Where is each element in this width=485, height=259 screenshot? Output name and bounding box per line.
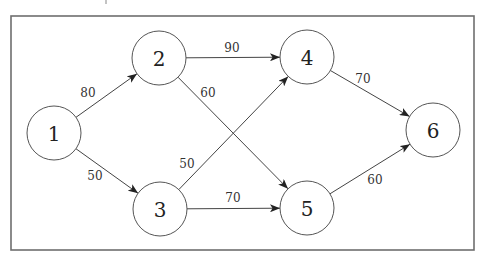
edge-weight-label: 50 bbox=[179, 157, 194, 171]
network-diagram: 8050906050707060 123456 bbox=[0, 0, 485, 259]
edge-4-to-6: 70 bbox=[330, 71, 409, 117]
node-4: 4 bbox=[280, 30, 334, 84]
edge-weight-label: 60 bbox=[367, 173, 382, 187]
node-label: 1 bbox=[48, 122, 61, 146]
edge-weight-label: 90 bbox=[224, 41, 239, 55]
edge-1-to-3: 50 bbox=[76, 149, 138, 194]
node-2: 2 bbox=[132, 31, 186, 85]
edge-arrow bbox=[186, 57, 280, 58]
edge-weight-label: 70 bbox=[355, 72, 370, 86]
node-label: 3 bbox=[154, 198, 167, 222]
node-label: 5 bbox=[301, 197, 314, 221]
edge-weight-label: 60 bbox=[200, 86, 215, 100]
edges-layer: 8050906050707060 bbox=[76, 41, 410, 209]
nodes-layer: 123456 bbox=[27, 30, 460, 236]
edge-weight-label: 50 bbox=[87, 169, 102, 183]
edge-arrow bbox=[187, 208, 280, 209]
node-1: 1 bbox=[27, 106, 81, 160]
node-label: 6 bbox=[427, 119, 440, 143]
edge-2-to-4: 90 bbox=[186, 41, 280, 58]
edge-1-to-2: 80 bbox=[76, 74, 137, 118]
node-label: 2 bbox=[153, 47, 166, 71]
edge-5-to-6: 60 bbox=[330, 144, 410, 194]
edge-3-to-5: 70 bbox=[187, 191, 280, 209]
edge-arrow bbox=[76, 149, 138, 194]
node-6: 6 bbox=[406, 103, 460, 157]
node-label: 4 bbox=[301, 46, 314, 70]
edge-weight-label: 70 bbox=[225, 191, 240, 205]
node-3: 3 bbox=[133, 182, 187, 236]
edge-weight-label: 80 bbox=[80, 86, 95, 100]
node-5: 5 bbox=[280, 181, 334, 235]
